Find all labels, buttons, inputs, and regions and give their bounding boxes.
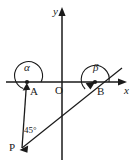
- figure-canvas: [0, 0, 134, 167]
- point-dot-a: [25, 80, 29, 84]
- angle-label-beta: β: [93, 62, 98, 73]
- x-axis-label: x: [124, 85, 129, 96]
- ray-p-to-a: [22, 88, 26, 148]
- point-label-a: A: [30, 86, 38, 97]
- point-dot-b: [93, 80, 97, 84]
- y-axis-arrowhead-icon: [58, 7, 65, 16]
- y-axis-label: y: [53, 6, 58, 17]
- angle-label-45-degrees: 45°: [24, 126, 37, 135]
- point-label-o: O: [55, 85, 63, 96]
- ray-p-to-b: [22, 68, 122, 148]
- geometry-figure: y x O A B P α β 45°: [0, 0, 134, 167]
- point-label-b: B: [97, 86, 104, 97]
- angle-label-alpha: α: [24, 62, 30, 73]
- point-label-p: P: [9, 142, 15, 153]
